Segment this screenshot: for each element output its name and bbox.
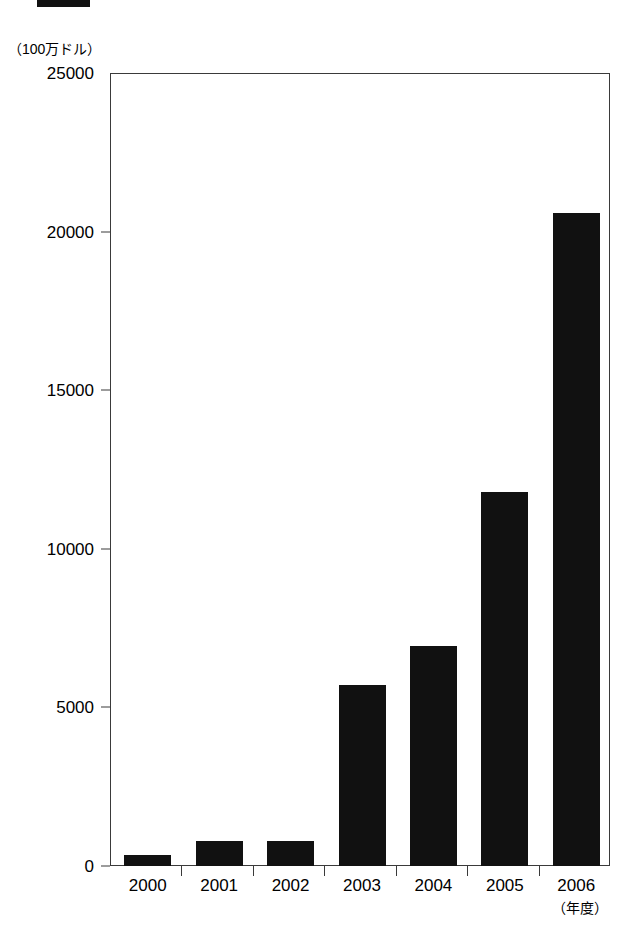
y-tick-label-20000: 20000 (47, 223, 94, 240)
y-tick-label-10000: 10000 (47, 540, 94, 557)
y-tick-mark-5000 (101, 707, 110, 708)
x-tick-mark-3 (396, 866, 397, 876)
y-tick-mark-0 (101, 866, 110, 867)
x-tick-label-2006: 2006 (557, 876, 595, 896)
y-tick-mark-20000 (101, 231, 110, 232)
y-tick-label-5000: 5000 (56, 699, 94, 716)
x-tick-label-2005: 2005 (486, 876, 524, 896)
y-tick-label-25000: 25000 (47, 65, 94, 82)
y-axis: 0500010000150002000025000 (0, 0, 110, 938)
x-tick-label-2002: 2002 (272, 876, 310, 896)
x-tick-label-2004: 2004 (415, 876, 453, 896)
bar-series (110, 73, 610, 866)
bar-2006 (553, 213, 600, 866)
x-tick-label-2000: 2000 (129, 876, 167, 896)
bar-2004 (410, 646, 457, 866)
y-tick-mark-10000 (101, 548, 110, 549)
bar-2003 (339, 685, 386, 866)
x-tick-mark-5 (539, 866, 540, 876)
x-tick-mark-0 (181, 866, 182, 876)
y-tick-mark-15000 (101, 390, 110, 391)
y-tick-label-15000: 15000 (47, 382, 94, 399)
bar-2000 (124, 855, 171, 866)
bar-2001 (196, 841, 243, 866)
bar-2002 (267, 841, 314, 866)
x-axis-unit-label: （年度） (552, 899, 608, 917)
x-tick-mark-1 (253, 866, 254, 876)
x-tick-mark-2 (324, 866, 325, 876)
x-tick-label-2003: 2003 (343, 876, 381, 896)
y-tick-label-0: 0 (85, 858, 94, 875)
x-tick-label-2001: 2001 (200, 876, 238, 896)
bar-2005 (481, 492, 528, 866)
x-tick-mark-4 (467, 866, 468, 876)
